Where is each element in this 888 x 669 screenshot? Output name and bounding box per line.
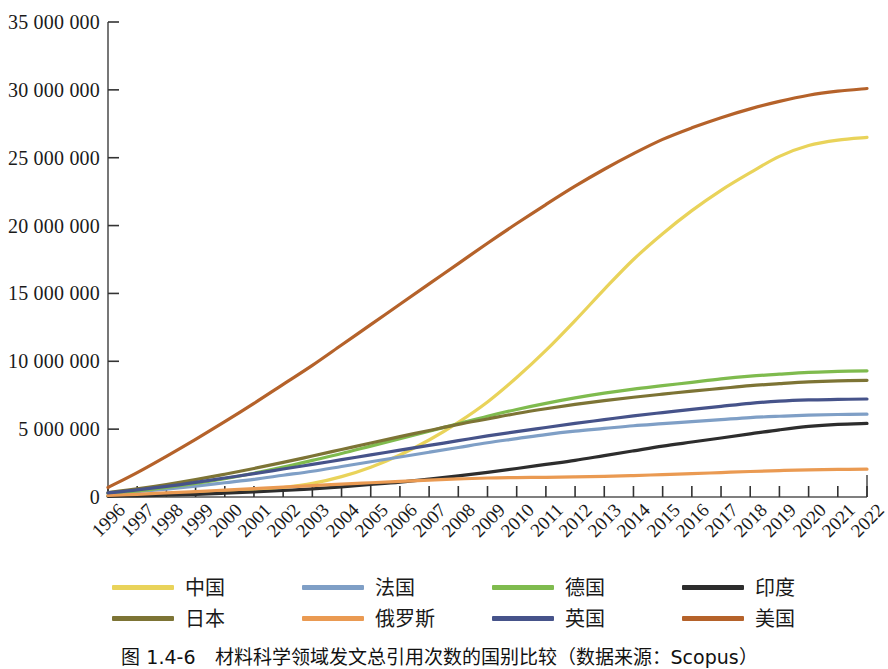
y-axis-tick-label: 10 000 000 [4, 351, 100, 371]
legend-color-swatch [302, 585, 364, 590]
legend-item-uk[interactable]: 英国 [492, 603, 682, 634]
legend-label: 俄罗斯 [375, 609, 435, 629]
legend-row: 日本俄罗斯英国美国 [112, 603, 872, 634]
x-axis-tick-label: 2022 [847, 500, 887, 540]
legend-item-china[interactable]: 中国 [112, 572, 302, 603]
chart-plot-area: 35 000 00030 000 00025 000 00020 000 000… [0, 0, 879, 512]
legend-item-usa[interactable]: 美国 [682, 603, 872, 634]
legend-label: 德国 [565, 578, 605, 598]
legend-label: 日本 [185, 609, 225, 629]
legend-item-germany[interactable]: 德国 [492, 572, 682, 603]
legend-item-france[interactable]: 法国 [302, 572, 492, 603]
legend-label: 美国 [755, 609, 795, 629]
legend-color-swatch [492, 616, 554, 621]
legend-label: 英国 [565, 609, 605, 629]
y-axis-tick-label: 5 000 000 [4, 419, 100, 439]
y-axis-tick-label: 30 000 000 [4, 80, 100, 100]
legend-color-swatch [682, 616, 744, 621]
series-line-usa [108, 89, 867, 488]
legend-item-russia[interactable]: 俄罗斯 [302, 603, 492, 634]
legend-color-swatch [112, 616, 174, 621]
y-axis-tick-labels: 35 000 00030 000 00025 000 00020 000 000… [0, 0, 100, 512]
legend-color-swatch [682, 585, 744, 590]
chart-svg [0, 0, 879, 512]
legend-label: 印度 [755, 578, 795, 598]
axes-group [108, 22, 867, 497]
y-axis-tick-label: 15 000 000 [4, 283, 100, 303]
series-line-france [108, 414, 867, 493]
legend-row: 中国法国德国印度 [112, 572, 872, 603]
legend-item-japan[interactable]: 日本 [112, 603, 302, 634]
legend-color-swatch [302, 616, 364, 621]
legend-item-india[interactable]: 印度 [682, 572, 872, 603]
legend-label: 中国 [185, 578, 225, 598]
series-group [108, 89, 867, 497]
y-axis-tick-label: 35 000 000 [4, 12, 100, 32]
figure-caption: 图 1.4-6 材料科学领域发文总引用次数的国别比较（数据来源：Scopus） [0, 645, 879, 669]
legend-color-swatch [112, 585, 174, 590]
legend-color-swatch [492, 585, 554, 590]
legend-label: 法国 [375, 578, 415, 598]
y-axis-tick-label: 25 000 000 [4, 148, 100, 168]
x-axis-tick-labels: 1996199719981999200020012002200320042005… [0, 500, 879, 570]
y-axis-tick-label: 20 000 000 [4, 216, 100, 236]
chart-legend: 中国法国德国印度日本俄罗斯英国美国 [112, 572, 872, 634]
